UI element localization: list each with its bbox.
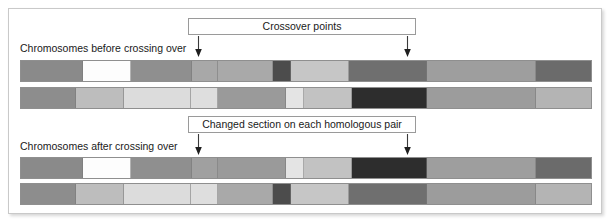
chromosome-segment [218, 61, 273, 81]
chromosome-segment [536, 184, 591, 204]
chromosome-segment [76, 88, 124, 108]
chromosome-before-1 [20, 60, 592, 82]
chromosome-segment [286, 88, 304, 108]
before-crossing-over-label: Chromosomes before crossing over [20, 42, 186, 55]
chromosome-segment [218, 184, 273, 204]
chromosome-segment [536, 158, 591, 178]
crossover-arrow-right-icon [403, 36, 412, 58]
chromosome-segment [291, 61, 349, 81]
chromosome-segment [427, 184, 537, 204]
chromosome-segment [304, 88, 352, 108]
chromosome-segment [427, 61, 537, 81]
chromosome-segment [352, 158, 427, 178]
chromosome-segment [21, 61, 83, 81]
chromosome-segment [273, 184, 291, 204]
changed-section-callout: Changed section on each homologous pair [188, 116, 416, 133]
chromosome-segment [218, 88, 286, 108]
chromosome-segment [124, 88, 192, 108]
chromosome-segment [536, 88, 591, 108]
changed-arrow-left-icon [194, 134, 203, 156]
chromosome-segment [21, 88, 76, 108]
chromosome-segment [76, 184, 124, 204]
chromosome-segment [83, 158, 131, 178]
changed-arrow-right-icon [403, 134, 412, 156]
chromosome-before-2 [20, 87, 592, 109]
chromosome-segment [131, 61, 193, 81]
chromosome-segment [273, 61, 291, 81]
chromosome-segment [191, 184, 218, 204]
chromosome-segment [427, 88, 537, 108]
chromosome-segment [286, 158, 304, 178]
chromosome-segment [83, 61, 131, 81]
crossover-arrow-left-icon [194, 36, 203, 58]
chromosome-segment [349, 61, 427, 81]
chromosome-segment [192, 61, 218, 81]
crossover-points-callout: Crossover points [188, 18, 416, 35]
chromosome-after-2 [20, 183, 592, 205]
chromosome-segment [191, 88, 218, 108]
chromosome-segment [352, 88, 427, 108]
chromosome-segment [131, 158, 193, 178]
chromosome-segment [304, 158, 352, 178]
chromosome-segment [21, 158, 83, 178]
chromosome-segment [124, 184, 192, 204]
chromosome-segment [21, 184, 76, 204]
chromosome-segment [218, 158, 286, 178]
after-crossing-over-label: Chromosomes after crossing over [20, 140, 178, 153]
chromosome-after-1 [20, 157, 592, 179]
chromosome-segment [427, 158, 537, 178]
chromosome-segment [349, 184, 427, 204]
chromosome-segment [192, 158, 218, 178]
chromosome-segment [291, 184, 349, 204]
crossing-over-figure: Crossover pointsChanged section on each … [0, 0, 612, 224]
chromosome-segment [536, 61, 591, 81]
